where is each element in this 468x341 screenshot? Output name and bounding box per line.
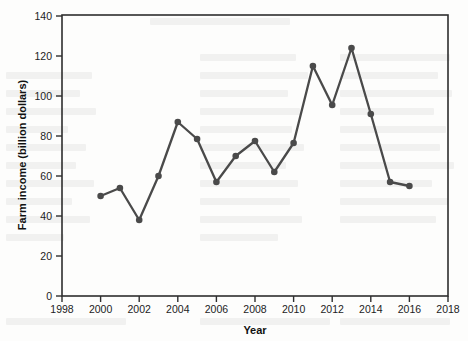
data-point [348,45,355,52]
plot-frame [62,15,448,296]
data-point [310,63,317,70]
y-tick-label: 60 [40,170,52,182]
data-point [175,119,182,126]
data-point [406,183,413,190]
data-point [232,153,239,160]
y-tick-label: 0 [46,290,52,302]
data-point [271,169,278,176]
data-point [117,185,124,192]
y-axis-tick-labels: 0 20 40 60 80 100 120 140 [34,10,52,302]
x-tick-label: 2008 [243,303,267,315]
y-axis-ticks [56,16,62,296]
x-tick-label: 2006 [205,303,229,315]
x-axis-tick-labels: 1998 2000 2002 2004 2006 2008 2010 2012 … [50,303,460,315]
y-tick-label: 20 [40,250,52,262]
data-point [136,217,143,224]
x-tick-label: 2002 [128,303,152,315]
x-tick-label: 2012 [321,303,345,315]
x-axis-title: Year [243,324,267,336]
x-tick-label: 2000 [89,303,113,315]
data-point [329,102,336,109]
data-point [213,179,220,186]
y-tick-label: 100 [34,90,52,102]
x-tick-label: 2010 [282,303,306,315]
x-tick-label: 1998 [50,303,74,315]
farm-income-series-line [101,48,410,220]
data-point [387,179,394,186]
farm-income-series-markers [97,45,412,224]
data-point [194,136,201,143]
x-tick-label: 2018 [436,303,460,315]
y-tick-label: 40 [40,210,52,222]
x-tick-label: 2004 [166,303,190,315]
y-tick-label: 120 [34,50,52,62]
y-axis-title: Farm income (billion dollars) [16,79,28,230]
data-point [368,111,375,118]
x-tick-label: 2016 [398,303,422,315]
data-point [97,193,104,200]
y-tick-label: 80 [40,130,52,142]
chart-svg: 0 20 40 60 80 100 120 140 1998 2000 2002 [0,0,468,341]
data-point [155,173,162,180]
x-axis-ticks [62,296,448,302]
data-point [290,140,297,147]
data-point [252,138,259,145]
y-tick-label: 140 [34,10,52,22]
farm-income-line-chart: 0 20 40 60 80 100 120 140 1998 2000 2002 [0,0,468,341]
x-tick-label: 2014 [359,303,383,315]
